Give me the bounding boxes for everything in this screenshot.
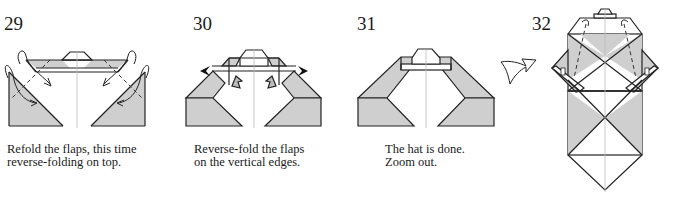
step-31-diagram	[358, 49, 494, 128]
diagram-canvas	[0, 0, 675, 204]
step-32-diagram	[552, 9, 658, 192]
zoom-out-arrow-icon	[501, 59, 536, 84]
step-29-diagram	[5, 51, 148, 128]
step-30-diagram	[186, 50, 321, 128]
